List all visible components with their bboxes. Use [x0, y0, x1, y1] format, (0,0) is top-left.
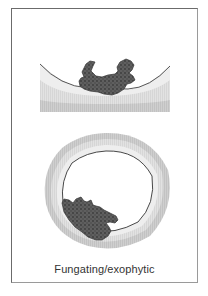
transverse-section: [45, 133, 170, 248]
tumor-mass: [79, 59, 135, 95]
diagram-illustration: [0, 0, 208, 296]
figure-caption: Fungating/exophytic: [11, 263, 198, 275]
longitudinal-section: [40, 59, 170, 112]
